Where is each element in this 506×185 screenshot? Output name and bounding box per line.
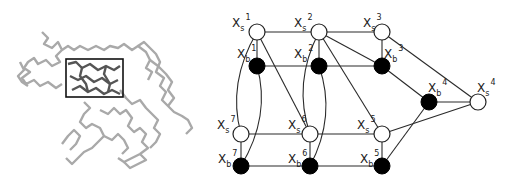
label-xb2: Xb2 [294, 44, 313, 64]
graph-edges [241, 32, 478, 166]
node-xb4 [421, 94, 437, 110]
node-xs3 [374, 24, 390, 40]
label-xs2: Xs2 [294, 13, 313, 33]
edge-xs2-xb3 [319, 32, 382, 66]
node-xb1 [249, 58, 265, 74]
curved-edge-xb1-xb7 [241, 66, 261, 166]
node-xs5 [374, 126, 390, 142]
node-xs1 [249, 24, 265, 40]
node-xs2 [311, 24, 327, 40]
label-xs5: Xs5 [357, 115, 376, 135]
node-xb6 [302, 158, 318, 174]
curved-edge-xb2-xb6 [310, 66, 326, 166]
label-xs1: Xs1 [232, 13, 251, 33]
node-xs4 [470, 94, 486, 110]
edge-xb3-xb4 [382, 66, 429, 102]
node-xs6 [302, 126, 318, 142]
graph-diagram: Xs1Xs2Xs3Xs4Xs5Xs6Xs7Xb1Xb2Xb3Xb4Xb5Xb6X… [0, 0, 506, 185]
node-xb5 [374, 158, 390, 174]
node-xs7 [233, 126, 249, 142]
node-xb7 [233, 158, 249, 174]
node-xb2 [311, 58, 327, 74]
